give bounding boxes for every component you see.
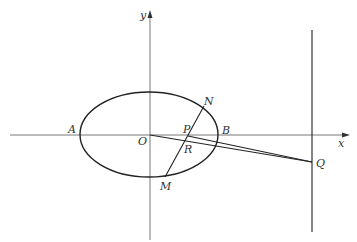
y-axis-arrow-icon: [148, 10, 153, 18]
label-n: N: [204, 96, 214, 107]
label-p: P: [183, 124, 190, 135]
label-a: A: [68, 124, 76, 135]
label-x: x: [338, 138, 344, 149]
label-r: R: [184, 144, 192, 155]
label-q: Q: [316, 158, 325, 169]
geometry-figure: [0, 0, 357, 242]
label-y: y: [140, 10, 146, 21]
label-b: B: [222, 125, 230, 136]
label-m: M: [160, 181, 171, 192]
segment-oq: [150, 135, 312, 162]
chord-mn: [165, 106, 204, 177]
label-o: O: [138, 136, 147, 147]
diagram: y x O A B N P R M Q: [0, 0, 357, 242]
ellipse: [80, 92, 218, 177]
